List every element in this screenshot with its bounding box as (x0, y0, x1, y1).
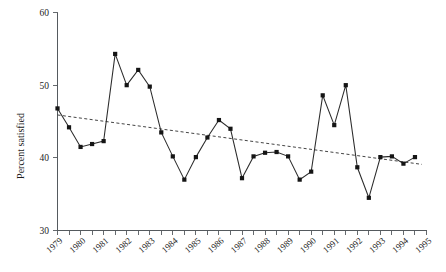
x-tick-label-1994: 1994 (390, 235, 410, 255)
data-point-marker (251, 154, 255, 158)
x-tick-label-1983: 1983 (137, 235, 157, 255)
y-tick-label-60: 60 (40, 8, 50, 18)
data-point-marker (171, 154, 175, 158)
y-axis-tick-labels: 60 50 40 30 (40, 8, 50, 236)
data-point-marker (102, 139, 106, 143)
data-point-marker (205, 135, 209, 139)
trend-line (58, 115, 422, 164)
x-tick-label-1995: 1995 (413, 235, 433, 255)
x-tick-label-1988: 1988 (252, 235, 272, 255)
data-point-marker (355, 165, 359, 169)
data-point-marker (378, 155, 382, 159)
data-point-marker (217, 118, 221, 122)
x-tick-label-1985: 1985 (183, 235, 203, 255)
data-series-line (58, 54, 415, 198)
data-point-marker (113, 52, 117, 56)
data-point-marker (159, 130, 163, 134)
data-point-markers (55, 52, 417, 200)
data-point-marker (148, 85, 152, 89)
data-point-marker (240, 176, 244, 180)
data-point-marker (182, 178, 186, 182)
x-tick-label-1979: 1979 (44, 235, 64, 255)
data-point-marker (401, 162, 405, 166)
data-point-marker (413, 155, 417, 159)
data-point-marker (390, 154, 394, 158)
x-axis-ticks-and-labels: 1979198019811982198319841985198619871988… (44, 231, 433, 256)
y-tick-label-40: 40 (40, 153, 50, 163)
x-tick-label-1989: 1989 (275, 235, 295, 255)
data-point-marker (78, 145, 82, 149)
x-tick-label-1987: 1987 (229, 235, 249, 255)
data-point-marker (367, 196, 371, 200)
x-tick-label-1993: 1993 (367, 235, 387, 255)
line-chart: Percent satisfied 60 50 40 30 1979198019… (0, 0, 446, 272)
data-point-marker (274, 150, 278, 154)
y-axis-title: Percent satisfied (15, 113, 26, 179)
data-point-marker (67, 125, 71, 129)
x-tick-label-1980: 1980 (67, 235, 87, 255)
chart-container: Percent satisfied 60 50 40 30 1979198019… (0, 0, 446, 272)
data-point-marker (298, 178, 302, 182)
x-tick-label-1982: 1982 (113, 236, 133, 255)
x-tick-label-1981: 1981 (90, 236, 110, 255)
data-point-marker (228, 127, 232, 131)
data-point-marker (321, 93, 325, 97)
data-point-marker (90, 142, 94, 146)
x-tick-label-1991: 1991 (321, 236, 341, 255)
y-tick-label-50: 50 (40, 81, 50, 91)
x-tick-label-1986: 1986 (206, 235, 226, 255)
data-point-marker (263, 151, 267, 155)
data-point-marker (194, 155, 198, 159)
y-tick-label-30: 30 (40, 226, 50, 236)
data-point-marker (332, 123, 336, 127)
data-point-marker (286, 154, 290, 158)
x-tick-label-1990: 1990 (298, 235, 318, 255)
x-tick-label-1984: 1984 (160, 235, 180, 255)
y-axis-ticks (53, 13, 58, 231)
data-point-marker (125, 83, 129, 87)
x-tick-label-1992: 1992 (344, 236, 364, 255)
data-point-marker (55, 106, 59, 110)
data-point-marker (309, 170, 313, 174)
data-point-marker (136, 68, 140, 72)
data-point-marker (344, 83, 348, 87)
